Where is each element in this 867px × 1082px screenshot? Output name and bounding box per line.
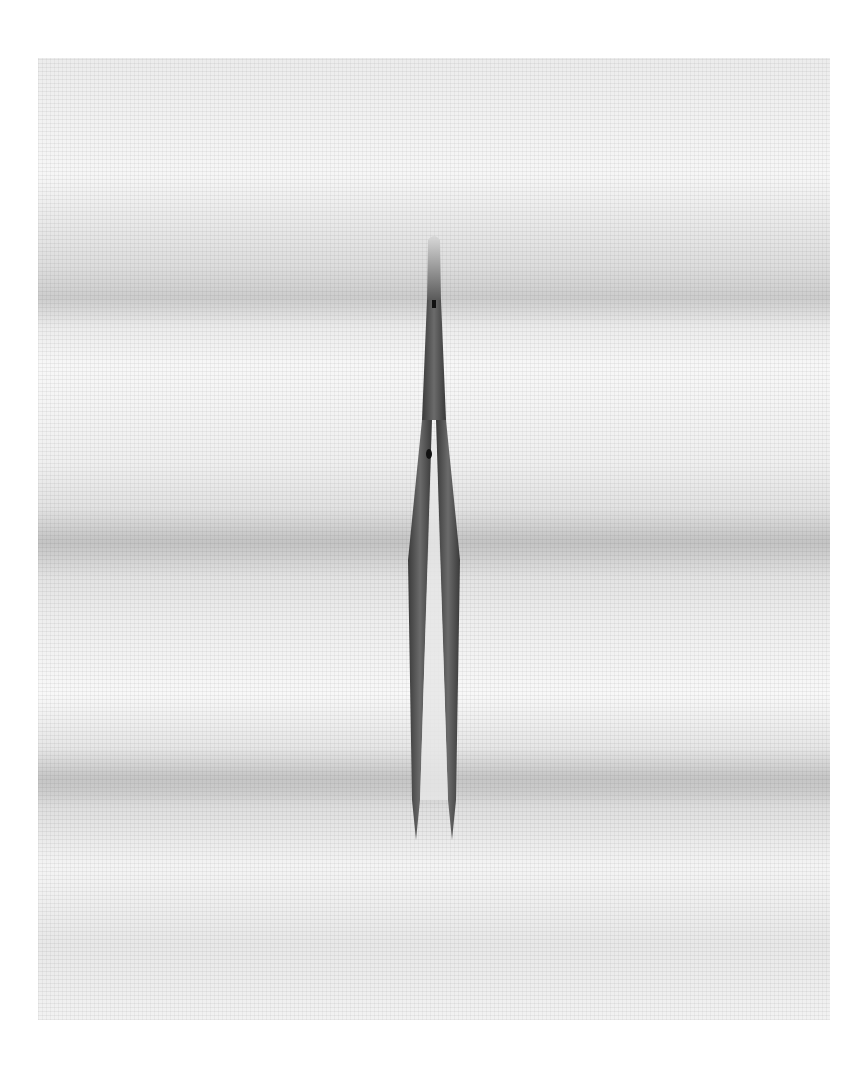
tweezers-head: [427, 236, 441, 300]
tweezers: [0, 0, 867, 1082]
